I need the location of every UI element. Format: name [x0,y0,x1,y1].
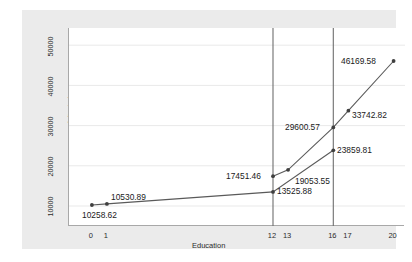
x-tick-label-17: 17 [335,231,359,240]
data-point-12-lower [271,190,275,194]
gridlines [69,45,405,206]
plot-area: 10258.62 10530.89 13525.88 23859.81 1745… [68,28,404,226]
data-point-20-upper [392,59,396,63]
data-label-33742: 33742.82 [352,110,387,120]
x-axis-title: Education [192,241,225,250]
data-label-13525: 13525.88 [277,186,312,196]
data-point-0 [90,203,94,207]
y-tick-label-50000: 50000 [46,30,55,64]
data-point-17-upper [347,109,351,113]
data-label-46169: 46169.58 [341,56,376,66]
data-point-16-upper [331,126,335,130]
data-point-16-lower [331,148,335,152]
y-tick-label-30000: 30000 [46,110,55,144]
x-tick-label-1: 1 [94,231,118,240]
data-label-29600: 29600.57 [285,122,320,132]
data-point-1 [105,202,109,206]
chart-figure: Adjusted mean 10000 20000 30000 40000 50… [0,0,412,262]
y-tick-label-40000: 40000 [46,70,55,104]
data-point-12-upper [271,174,275,178]
x-tick-label-13: 13 [275,231,299,240]
x-tick-label-20: 20 [381,231,405,240]
data-point-13-upper [286,168,290,172]
data-label-17451: 17451.46 [226,171,261,181]
y-tick-label-20000: 20000 [46,150,55,184]
data-label-10530: 10530.89 [111,192,146,202]
data-label-10258: 10258.62 [82,210,117,220]
data-label-23859: 23859.81 [337,145,372,155]
graph-region: Adjusted mean 10000 20000 30000 40000 50… [22,10,396,249]
data-label-19053: 19053.55 [295,176,330,186]
y-tick-label-10000: 10000 [46,190,55,224]
